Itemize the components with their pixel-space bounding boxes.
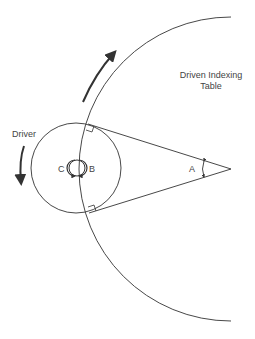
- label-table: Table: [200, 81, 222, 91]
- angle-a-arc: [203, 161, 205, 177]
- label-angle-b: B: [89, 164, 95, 174]
- driver-circle: [31, 123, 121, 213]
- tangent-line-lower: [89, 169, 231, 213]
- label-driver: Driver: [12, 129, 36, 139]
- indexing-diagram: Driven Indexing Table Driver A B C: [0, 0, 255, 339]
- tangent-line-upper: [88, 124, 231, 169]
- label-angle-c: C: [58, 164, 65, 174]
- angle-bc-circle: [69, 160, 85, 176]
- right-angle-marker-upper: [86, 126, 94, 132]
- label-driven-indexing: Driven Indexing: [180, 70, 243, 80]
- rotation-arrow-driver: [20, 146, 24, 182]
- label-angle-a: A: [189, 164, 195, 174]
- driven-table-arc: [79, 17, 231, 321]
